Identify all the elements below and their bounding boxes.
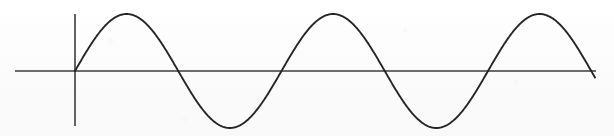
axes-group [15, 14, 596, 126]
sine-wave-plot [0, 0, 614, 136]
sine-wave-figure [0, 0, 614, 136]
